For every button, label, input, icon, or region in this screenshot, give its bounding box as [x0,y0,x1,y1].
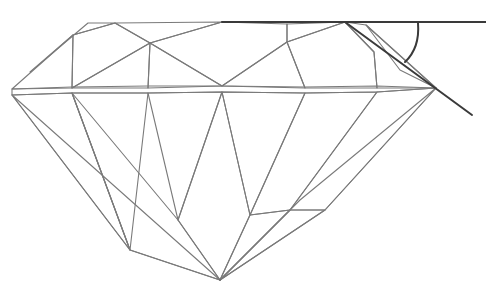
crown [12,22,436,89]
diamond-illustration [0,0,486,283]
diamond-diagram [0,0,486,283]
culet-point [219,279,221,281]
crown-angle-arc [405,23,418,62]
girdle [12,86,436,95]
pavilion [12,88,436,280]
crown-slope-line [345,22,472,115]
